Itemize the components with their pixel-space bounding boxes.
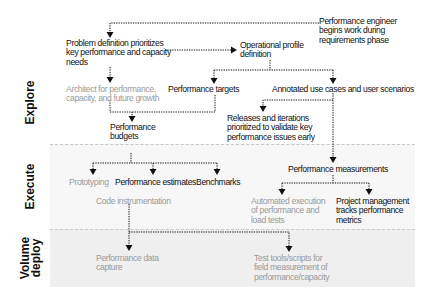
node-performance-targets: Performance targets [168, 85, 239, 94]
node-line: budgets [110, 132, 155, 141]
node-performance-measurements: Performance measurements [288, 165, 388, 174]
node-performance-engineer: Performance engineer begins work during … [319, 17, 397, 45]
node-line: metrics [336, 216, 409, 225]
node-line: performance/capacity [254, 273, 329, 282]
node-line: capture [96, 263, 159, 272]
node-automated-execution: Automated execution of performance and l… [251, 197, 325, 225]
node-releases-iterations: Releases and iterations prioritized to v… [227, 114, 315, 142]
node-prototyping: Prototyping [69, 178, 109, 187]
node-performance-budgets: Performance budgets [110, 123, 155, 142]
node-line: requirements phase [319, 36, 397, 45]
node-line: capacity, and future growth [66, 94, 159, 103]
node-test-tools: Test tools/scripts for field measurement… [254, 254, 329, 282]
node-code-instrumentation: Code instrumentation [96, 197, 171, 206]
node-architect: Architect for performance, capacity, and… [66, 85, 159, 104]
node-problem-definition: Problem definition prioritizes key perfo… [66, 39, 171, 67]
node-project-management: Project management tracks performance me… [336, 197, 409, 225]
node-performance-data-capture: Performance data capture [96, 254, 159, 273]
node-annotated-use-cases: Annotated use cases and user scenarios [272, 85, 414, 94]
node-line: needs [66, 58, 171, 67]
node-line: load tests [251, 216, 325, 225]
node-line: performance issues early [227, 133, 315, 142]
node-line: definition [240, 50, 304, 59]
node-benchmarks: Benchmarks [196, 178, 240, 187]
node-operational-profile: Operational profile definition [240, 41, 304, 60]
node-performance-estimates: Performance estimates [115, 178, 196, 187]
